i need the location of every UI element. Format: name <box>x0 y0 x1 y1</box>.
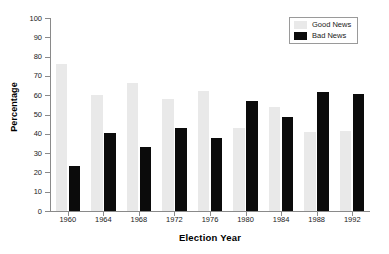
chart-legend: Good News Bad News <box>289 17 358 44</box>
bar-good-news <box>269 107 281 211</box>
y-axis-tick-label: 70 <box>34 73 42 81</box>
bar-bad-news <box>69 166 81 211</box>
x-axis-tick-label: 1968 <box>131 216 148 224</box>
y-axis-tick: 20 <box>45 172 50 173</box>
legend-label-good-news: Good News <box>312 21 351 29</box>
plot-area: 1009080706050403020100 <box>50 18 370 212</box>
bar-bad-news <box>246 101 258 211</box>
legend-label-bad-news: Bad News <box>312 32 346 40</box>
bar-bad-news <box>140 147 152 211</box>
y-axis-tick-label: 80 <box>34 53 42 61</box>
y-axis-tick-label: 20 <box>34 169 42 177</box>
y-axis-title-text: Percentage <box>9 82 19 132</box>
x-axis-tick-label: 1964 <box>95 216 112 224</box>
y-axis-tick: 60 <box>45 95 50 96</box>
bar-good-news <box>198 91 210 211</box>
y-axis-tick: 50 <box>45 115 50 116</box>
x-axis-tick-label: 1976 <box>202 216 219 224</box>
y-axis-tick-label: 40 <box>34 131 42 139</box>
x-axis-tick-label: 1984 <box>273 216 290 224</box>
bar-bad-news <box>104 133 116 211</box>
bar-bad-news <box>282 117 294 211</box>
bar-good-news <box>127 83 139 211</box>
y-axis-tick: 100 <box>45 18 50 19</box>
bar-good-news <box>162 99 174 211</box>
bar-chart: Percentage 1009080706050403020100 196019… <box>0 0 389 254</box>
y-axis-tick: 90 <box>45 37 50 38</box>
y-axis-tick-label: 0 <box>38 208 42 216</box>
x-axis-tick-label: 1992 <box>344 216 361 224</box>
bar-good-news <box>56 64 68 211</box>
y-axis-tick: 10 <box>45 192 50 193</box>
y-axis-tick-label: 50 <box>34 111 42 119</box>
x-axis-tick-label: 1960 <box>59 216 76 224</box>
x-axis-tick-label: 1980 <box>237 216 254 224</box>
legend-swatch-good-news-icon <box>294 21 307 29</box>
y-axis-tick: 70 <box>45 76 50 77</box>
x-axis-title-text: Election Year <box>179 232 241 243</box>
x-axis-title: Election Year <box>50 232 370 243</box>
y-axis-tick-label: 60 <box>34 92 42 100</box>
y-axis-tick: 30 <box>45 153 50 154</box>
y-axis-title: Percentage <box>4 0 24 214</box>
legend-item-bad-news: Bad News <box>294 32 351 40</box>
bar-good-news <box>91 95 103 211</box>
legend-item-good-news: Good News <box>294 21 351 29</box>
y-axis-tick-label: 90 <box>34 34 42 42</box>
y-axis-tick-label: 100 <box>29 15 42 23</box>
bar-bad-news <box>353 94 365 211</box>
bar-good-news <box>233 128 245 211</box>
y-axis-tick: 0 <box>45 211 50 212</box>
bar-bad-news <box>211 138 223 211</box>
x-axis-tick-label: 1972 <box>166 216 183 224</box>
x-axis-tick-label: 1988 <box>308 216 325 224</box>
bar-bad-news <box>175 128 187 211</box>
y-axis-tick-label: 10 <box>34 188 42 196</box>
y-axis-line <box>50 18 51 212</box>
y-axis-tick: 80 <box>45 57 50 58</box>
bar-bad-news <box>317 92 329 211</box>
bar-good-news <box>340 131 352 211</box>
legend-swatch-bad-news-icon <box>294 32 307 40</box>
y-axis-tick: 40 <box>45 134 50 135</box>
y-axis-tick-label: 30 <box>34 150 42 158</box>
bar-good-news <box>304 132 316 211</box>
